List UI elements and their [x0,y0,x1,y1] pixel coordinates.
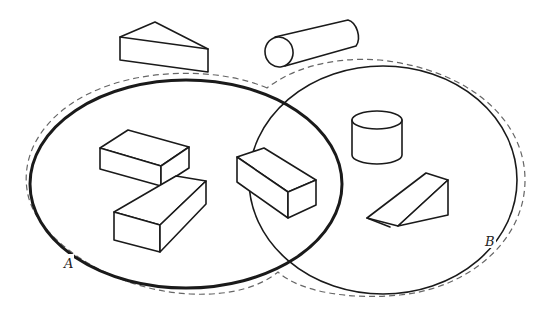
venn-diagram-svg: A B [0,0,545,310]
triangular-prism-top-shape [120,22,208,72]
cuboid-3-shape [237,148,316,218]
cylinder-lying-shape [263,20,359,69]
set-a-label: A [63,256,73,271]
triangular-prism-wedge-shape [367,173,448,227]
cuboid-2-shape [114,176,206,252]
venn-diagram-figure: A B [0,0,545,310]
set-b-label: B [484,234,495,249]
cylinder-upright-shape [352,111,402,164]
